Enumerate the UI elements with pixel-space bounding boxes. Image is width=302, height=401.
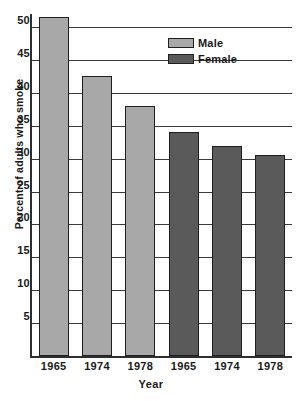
gridline	[32, 323, 292, 324]
y-tick-label: 35	[4, 113, 30, 125]
gridline	[32, 27, 292, 28]
y-tick-label: 45	[4, 47, 30, 59]
legend-swatch-male-icon	[168, 38, 194, 48]
y-tick-label: 40	[4, 80, 30, 92]
x-tick-label: 1965	[162, 360, 206, 372]
y-tick-label: 25	[4, 179, 30, 191]
legend-item-female: Female	[168, 52, 278, 66]
gridline	[32, 290, 292, 291]
bar-female-1978	[255, 155, 285, 356]
gridline	[32, 257, 292, 258]
legend: Male Female	[168, 36, 278, 68]
y-tick-label: 50	[4, 14, 30, 26]
gridline	[32, 224, 292, 225]
gridline	[32, 126, 292, 127]
y-axis-tick-labels: 5101520253035404550	[0, 14, 30, 356]
legend-label-male: Male	[198, 38, 223, 49]
gridline	[32, 159, 292, 160]
gridline	[32, 93, 292, 94]
bar-chart-figure: Percent of adults who smoke 510152025303…	[0, 0, 302, 401]
legend-swatch-female-icon	[168, 54, 194, 64]
x-tick-label: 1978	[118, 360, 162, 372]
gridline	[32, 192, 292, 193]
y-tick-label: 20	[4, 211, 30, 223]
bar-female-1974	[212, 146, 242, 356]
bar-male-1978	[125, 106, 155, 356]
bar-male-1974	[82, 76, 112, 356]
x-tick-label: 1978	[248, 360, 292, 372]
bar-male-1965	[39, 17, 69, 356]
legend-item-male: Male	[168, 36, 278, 50]
y-tick-label: 30	[4, 146, 30, 158]
bar-female-1965	[169, 132, 199, 356]
legend-label-female: Female	[198, 54, 237, 65]
x-tick-label: 1974	[75, 360, 119, 372]
x-tick-label: 1965	[32, 360, 76, 372]
x-axis-title: Year	[0, 378, 302, 390]
y-tick-label: 5	[4, 310, 30, 322]
y-tick-label: 15	[4, 244, 30, 256]
x-axis-line	[30, 356, 292, 358]
x-tick-label: 1974	[205, 360, 249, 372]
x-axis-tick-labels: 196519741978196519741978	[32, 360, 292, 380]
y-tick-label: 10	[4, 277, 30, 289]
